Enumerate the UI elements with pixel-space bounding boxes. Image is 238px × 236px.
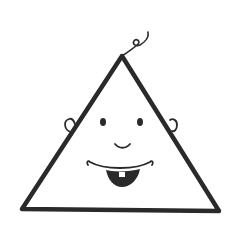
illustration-canvas bbox=[0, 0, 238, 236]
right-eye-icon bbox=[137, 118, 143, 126]
background bbox=[0, 0, 238, 236]
tooth-icon bbox=[119, 172, 125, 177]
left-eye-icon bbox=[100, 118, 106, 126]
triangle-baby-illustration bbox=[0, 0, 238, 236]
